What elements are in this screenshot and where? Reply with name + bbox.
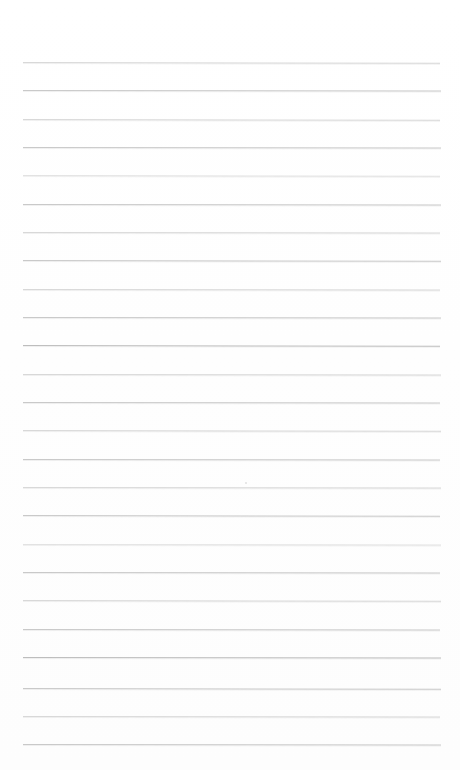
lined-paper-sheet	[0, 0, 460, 770]
writing-area[interactable]	[23, 62, 441, 752]
